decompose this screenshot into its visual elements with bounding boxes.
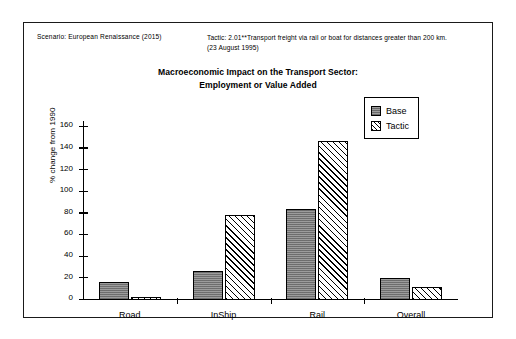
bar-road-base xyxy=(99,282,129,300)
y-tick-0: 0 xyxy=(79,299,88,300)
y-tick-120: 120 xyxy=(79,169,88,170)
tactic-annotation-line-2: (23 August 1995) xyxy=(207,43,482,53)
y-tick-20: 20 xyxy=(79,277,88,278)
bar-inship-tactic xyxy=(225,215,255,300)
scenario-annotation: Scenario: European Renaissance (2015) xyxy=(37,33,162,40)
legend-swatch-tactic-icon xyxy=(371,121,381,131)
bar-overall-base xyxy=(380,278,410,300)
x-tick-3 xyxy=(364,298,365,304)
bar-road-tactic xyxy=(131,297,161,300)
header-annotations: Scenario: European Renaissance (2015) Ta… xyxy=(24,31,492,59)
legend-item-tactic: Tactic xyxy=(371,118,409,133)
legend-label-base: Base xyxy=(386,106,407,116)
y-tick-100: 100 xyxy=(79,191,88,192)
y-tick-label-0: 0 xyxy=(69,293,73,302)
y-tick-140: 140 xyxy=(79,147,88,148)
y-axis-title: % change from 1990 xyxy=(48,107,57,183)
y-tick-label-40: 40 xyxy=(64,250,73,259)
legend-swatch-base-icon xyxy=(371,106,381,116)
chart-title: Macroeconomic Impact on the Transport Se… xyxy=(24,66,492,79)
y-tick-label-20: 20 xyxy=(64,272,73,281)
y-tick-160: 160 xyxy=(79,126,88,127)
tactic-annotation: Tactic: 2.01**Transport freight via rail… xyxy=(207,33,482,52)
x-tick-2 xyxy=(271,298,272,304)
bar-inship-base xyxy=(193,271,223,300)
figure-page: Scenario: European Renaissance (2015) Ta… xyxy=(0,0,516,339)
legend-item-base: Base xyxy=(371,103,409,118)
y-tick-60: 60 xyxy=(79,234,88,235)
y-tick-label-60: 60 xyxy=(64,228,73,237)
y-tick-40: 40 xyxy=(79,256,88,257)
tactic-annotation-line-1: Tactic: 2.01**Transport freight via rail… xyxy=(207,33,482,43)
y-tick-label-160: 160 xyxy=(60,120,73,129)
y-tick-label-80: 80 xyxy=(64,207,73,216)
category-label-inship: InShip xyxy=(177,310,271,320)
x-tick-1 xyxy=(177,298,178,304)
chart-title-block: Macroeconomic Impact on the Transport Se… xyxy=(24,66,492,91)
y-tick-label-140: 140 xyxy=(60,142,73,151)
bar-overall-tactic xyxy=(412,287,442,300)
category-label-road: Road xyxy=(83,310,177,320)
category-label-rail: Rail xyxy=(271,310,365,320)
figure-frame: Scenario: European Renaissance (2015) Ta… xyxy=(23,22,493,318)
bar-rail-tactic xyxy=(318,141,348,300)
chart-subtitle: Employment or Value Added xyxy=(24,79,492,92)
bar-rail-base xyxy=(286,209,316,300)
y-tick-80: 80 xyxy=(79,212,88,213)
legend-label-tactic: Tactic xyxy=(386,121,409,131)
chart-legend: Base Tactic xyxy=(364,97,419,139)
plot-area: 020406080100120140160 RoadInShipRailOver… xyxy=(83,121,458,306)
category-label-overall: Overall xyxy=(364,310,458,320)
y-tick-label-100: 100 xyxy=(60,185,73,194)
y-tick-label-120: 120 xyxy=(60,164,73,173)
